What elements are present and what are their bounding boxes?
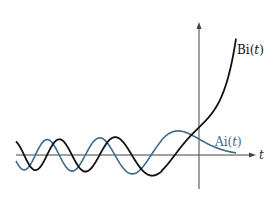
ai-label: Ai(t) (214, 135, 242, 149)
y-axis-arrowhead (197, 22, 202, 29)
t-axis-label: t (259, 148, 264, 162)
bi-label: Bi(t) (237, 43, 264, 57)
t-axis-arrowhead (249, 153, 256, 158)
airy-functions-plot: Bi(t) Ai(t) t (0, 0, 280, 198)
